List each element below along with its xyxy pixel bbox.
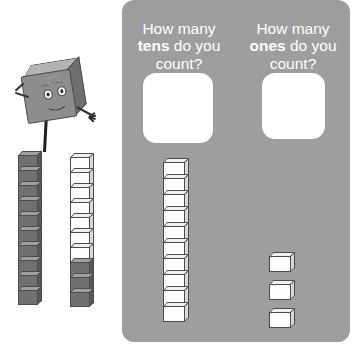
mascot-hand-right xyxy=(89,116,97,125)
ones-keyword: ones xyxy=(249,37,285,54)
illustration-area xyxy=(0,0,122,354)
tens-question-text: How many tens do you count? xyxy=(122,2,236,72)
question-column-tens: How many tens do you count? xyxy=(122,0,236,72)
cube-light xyxy=(163,302,189,322)
cube-light xyxy=(269,280,295,300)
ones-question-text: How many ones do you count? xyxy=(236,2,350,72)
tens-question-prefix: How many xyxy=(142,20,215,37)
answer-box-tens[interactable] xyxy=(143,73,213,143)
ones-question-prefix: How many xyxy=(256,20,329,37)
question-column-ones: How many ones do you count? xyxy=(236,0,350,72)
cube-dark xyxy=(18,286,42,305)
answer-box-ones[interactable] xyxy=(262,73,325,139)
worksheet-canvas: How many tens do you count? How many one… xyxy=(0,0,358,354)
cube-light xyxy=(269,252,295,272)
cube-dark xyxy=(70,288,94,307)
ones-cubes-group xyxy=(269,252,295,328)
questions-row: How many tens do you count? How many one… xyxy=(122,0,350,72)
tower-mixed xyxy=(70,153,94,307)
mascot-body-cube xyxy=(19,58,83,122)
cube-light xyxy=(269,308,295,328)
ten-rod xyxy=(163,158,189,322)
cube-mascot xyxy=(14,58,104,153)
tens-keyword: tens xyxy=(138,37,170,54)
tower-dark xyxy=(18,151,42,305)
question-panel: How many tens do you count? How many one… xyxy=(122,0,350,342)
